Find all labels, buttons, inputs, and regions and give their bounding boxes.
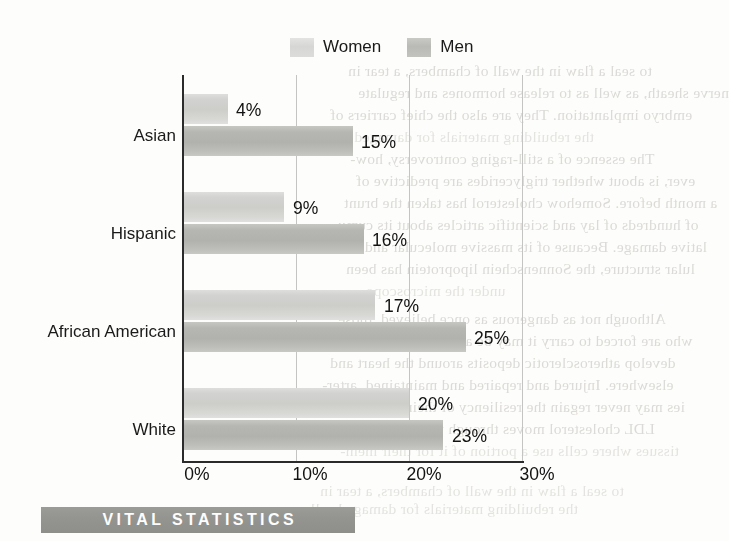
bar-group-african-american: 17% 25% — [182, 290, 523, 368]
x-axis-tick-labels: 0% 10% 20% 30% — [0, 466, 616, 494]
legend-label-women: Women — [323, 37, 381, 57]
bar-value-asian-men: 15% — [361, 134, 396, 152]
category-label-asian: Asian — [0, 127, 176, 144]
bar-value-hispanic-men: 16% — [372, 232, 407, 250]
plot-area: 4% 15% 9% 16% 17% 25% 20% 23% — [182, 75, 523, 462]
bar-hispanic-women — [182, 192, 284, 222]
bar-chart: Women Men 4% 15% 9% 16% 17% — [0, 0, 616, 500]
category-label-african-american: African American — [0, 323, 176, 340]
x-tick-label-30: 30% — [519, 466, 554, 484]
vital-statistics-banner: VITAL STATISTICS — [41, 507, 355, 533]
legend-swatch-men-icon — [407, 38, 431, 57]
bar-african-american-men — [182, 322, 466, 352]
bar-hispanic-men — [182, 224, 364, 254]
bar-group-hispanic: 9% 16% — [182, 192, 523, 270]
chart-legend: Women Men — [290, 36, 473, 58]
legend-item-men: Men — [407, 37, 473, 57]
bar-african-american-women — [182, 290, 375, 320]
bar-white-men — [182, 420, 443, 450]
bar-value-hispanic-women: 9% — [293, 200, 318, 218]
x-tick-label-0: 0% — [184, 466, 209, 484]
bar-value-african-american-women: 17% — [384, 298, 419, 316]
bar-group-white: 20% 23% — [182, 388, 523, 466]
bar-value-african-american-men: 25% — [474, 330, 509, 348]
x-tick-label-10: 10% — [292, 466, 327, 484]
bar-value-white-men: 23% — [452, 428, 487, 446]
x-tick-label-20: 20% — [406, 466, 441, 484]
bar-group-asian: 4% 15% — [182, 94, 523, 172]
legend-item-women: Women — [290, 37, 381, 57]
legend-swatch-women-icon — [290, 38, 314, 57]
bar-asian-women — [182, 94, 228, 124]
category-label-white: White — [0, 421, 176, 438]
category-axis-labels: Asian Hispanic African American White — [0, 75, 176, 462]
bar-value-white-women: 20% — [418, 396, 453, 414]
y-axis-line — [182, 75, 184, 462]
bar-white-women — [182, 388, 409, 418]
bar-value-asian-women: 4% — [236, 102, 261, 120]
legend-label-men: Men — [440, 37, 473, 57]
x-axis-line — [182, 461, 524, 463]
vital-statistics-banner-label: VITAL STATISTICS — [99, 511, 297, 529]
category-label-hispanic: Hispanic — [0, 225, 176, 242]
bar-asian-men — [182, 126, 353, 156]
